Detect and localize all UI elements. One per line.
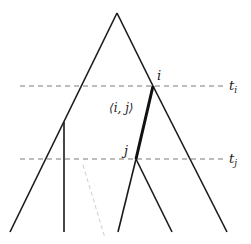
edge-root-i bbox=[117, 13, 153, 86]
edge-ij bbox=[136, 86, 153, 159]
node-j-label: j bbox=[121, 143, 128, 158]
ghost-edge bbox=[83, 165, 105, 238]
time-ti-label: ti bbox=[229, 78, 237, 95]
edge-j-right bbox=[136, 159, 172, 232]
edge-j-left bbox=[118, 159, 136, 232]
edge-ij-label: ⟨i, j⟩ bbox=[109, 101, 134, 115]
node-i-label: i bbox=[157, 68, 161, 83]
time-tj-label: tj bbox=[229, 151, 237, 168]
tree-diagram: i j ⟨i, j⟩ ti tj bbox=[0, 0, 251, 244]
